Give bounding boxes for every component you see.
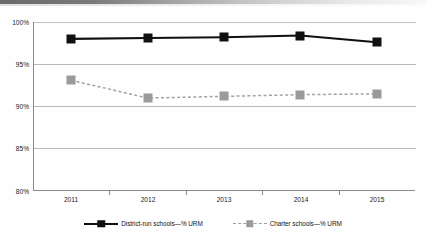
marker-charter-2014 [296, 90, 305, 99]
marker-charter-2015 [372, 89, 381, 98]
legend-label-charter: Charter schools—% URM [270, 220, 342, 227]
legend-key-dashed-square-icon [233, 219, 267, 228]
chart-figure: 100% 95% 90% 85% 80% 2011 2012 2013 2014… [0, 0, 426, 239]
legend-item-charter[interactable]: Charter schools—% URM [233, 219, 342, 228]
series-lines [0, 0, 426, 239]
marker-charter-2013 [220, 92, 229, 101]
marker-district-run-2012 [143, 34, 152, 43]
marker-charter-2012 [143, 94, 152, 103]
legend-item-district-run[interactable]: District-run schools—% URM [84, 219, 202, 228]
marker-district-run-2011 [67, 34, 76, 43]
chart-legend: District-run schools—% URM Charter schoo… [0, 219, 426, 228]
marker-district-run-2015 [372, 38, 381, 47]
marker-charter-2011 [67, 76, 76, 85]
legend-label-district-run: District-run schools—% URM [121, 220, 202, 227]
marker-district-run-2013 [220, 33, 229, 42]
legend-key-solid-square-icon [84, 219, 118, 228]
marker-district-run-2014 [296, 31, 305, 40]
